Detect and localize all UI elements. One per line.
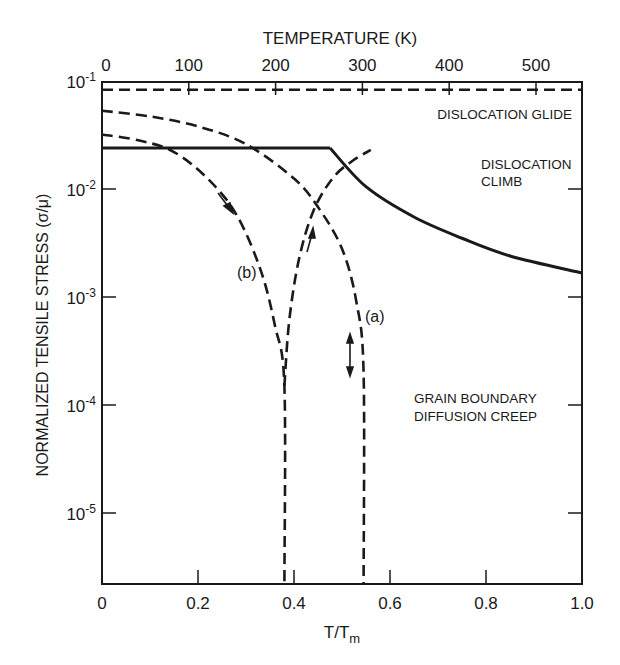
arrow-down-icon bbox=[218, 193, 233, 213]
x-tick-label: 0.6 bbox=[378, 594, 402, 613]
region-label-climb-line2: CLIMB bbox=[481, 174, 522, 189]
x-tick-label: 1.0 bbox=[570, 594, 594, 613]
y-axis-ticks: 10-110-210-310-410-5 bbox=[66, 70, 582, 524]
top-tick-label: 400 bbox=[435, 56, 463, 75]
x-tick-label: 0.8 bbox=[474, 594, 498, 613]
y-tick-label: 10-5 bbox=[66, 502, 96, 524]
x-axis-title-sub: m bbox=[349, 631, 360, 646]
top-tick-label: 200 bbox=[261, 56, 289, 75]
x-tick-label: 0.2 bbox=[186, 594, 210, 613]
bottom-axis-ticks: 00.20.40.60.81.0 bbox=[97, 570, 594, 613]
series-b-return bbox=[284, 150, 370, 386]
y-tick-label: 10-2 bbox=[66, 178, 96, 200]
arrow-up-icon bbox=[307, 228, 315, 252]
series-b bbox=[102, 134, 285, 584]
x-tick-label: 0 bbox=[97, 594, 106, 613]
region-label-climb-line1: DISLOCATION bbox=[481, 157, 572, 172]
x-axis-title-main: T/T bbox=[324, 623, 350, 642]
x-axis-title: T/Tm bbox=[324, 623, 360, 646]
x-tick-label: 0.4 bbox=[282, 594, 306, 613]
series-a bbox=[102, 111, 364, 584]
top-tick-label: 100 bbox=[175, 56, 203, 75]
region-label-gb-line1: GRAIN BOUNDARY bbox=[414, 391, 537, 406]
top-axis-title: TEMPERATURE (K) bbox=[263, 29, 418, 48]
top-tick-label: 500 bbox=[522, 56, 550, 75]
region-label-gb-line2: DIFFUSION CREEP bbox=[414, 409, 537, 424]
curve-label-a: (a) bbox=[365, 308, 385, 325]
chart-canvas: 0100200300400500 00.20.40.60.81.0 10-110… bbox=[0, 0, 620, 665]
y-tick-label: 10-1 bbox=[66, 70, 96, 92]
double-arrow-icon bbox=[347, 334, 353, 376]
top-tick-label: 300 bbox=[348, 56, 376, 75]
curve-label-b: (b) bbox=[237, 264, 257, 281]
y-axis-title: NORMALIZED TENSILE STRESS (σ/μ) bbox=[34, 194, 51, 477]
region-label-glide: DISLOCATION GLIDE bbox=[437, 107, 572, 122]
y-tick-label: 10-4 bbox=[66, 394, 96, 416]
top-tick-label: 0 bbox=[101, 56, 110, 75]
y-tick-label: 10-3 bbox=[66, 286, 96, 308]
